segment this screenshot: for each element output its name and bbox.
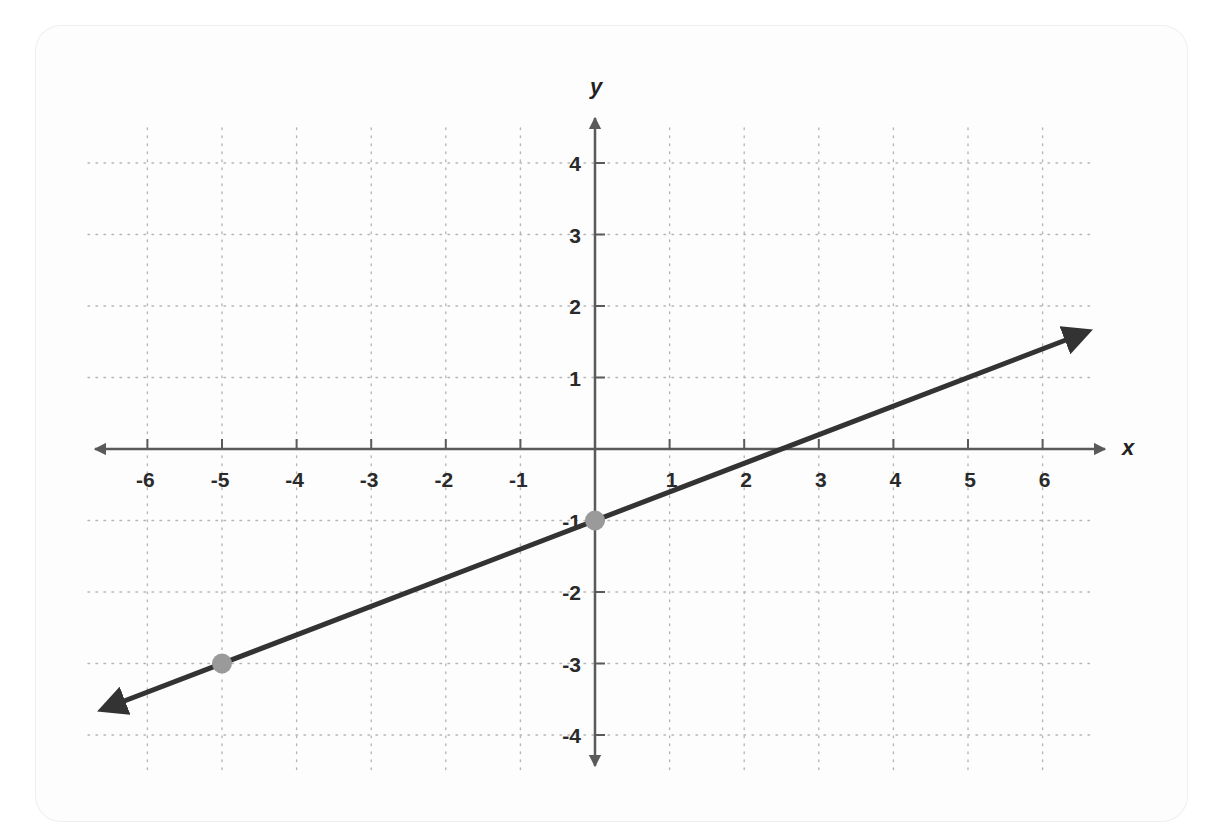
x-tick-label: 6	[1039, 468, 1051, 491]
y-tick-label: 1	[569, 367, 581, 390]
coordinate-plane: -6-5-4-3-2-11234564321-1-2-3-4 x y	[0, 0, 1214, 835]
y-tick-label: 4	[569, 152, 581, 175]
x-tick-label: 5	[964, 468, 976, 491]
y-tick-label: 2	[569, 295, 581, 318]
data-point	[212, 654, 232, 674]
x-tick-label: 4	[890, 468, 902, 491]
x-tick-label: -3	[360, 468, 379, 491]
y-tick-label: 3	[569, 224, 581, 247]
x-axis-label: x	[1121, 435, 1135, 460]
x-tick-label: 2	[740, 468, 752, 491]
y-tick-label: -2	[562, 581, 581, 604]
x-tick-label: -5	[211, 468, 230, 491]
x-tick-label: -6	[136, 468, 155, 491]
x-tick-label: -1	[509, 468, 528, 491]
y-tick-label: -3	[562, 653, 581, 676]
x-tick-label: 3	[815, 468, 827, 491]
y-tick-label: -4	[562, 724, 581, 747]
data-point	[585, 511, 605, 531]
y-axis-label: y	[589, 74, 604, 99]
x-tick-label: -4	[285, 468, 304, 491]
x-tick-label: -2	[434, 468, 453, 491]
axes	[95, 118, 1105, 766]
